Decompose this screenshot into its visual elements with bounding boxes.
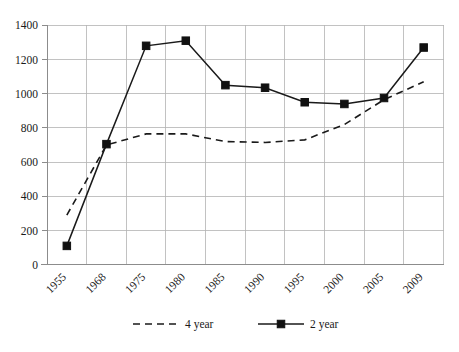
- data-point-marker: [380, 94, 388, 102]
- data-point-marker: [261, 84, 269, 92]
- y-axis-tick-label: 400: [21, 190, 39, 202]
- y-axis-tick-label: 1000: [15, 88, 38, 100]
- legend-label: 4 year: [185, 318, 214, 331]
- line-chart: 0200400600800100012001400 19551968197519…: [0, 0, 459, 352]
- data-point-marker: [222, 81, 230, 89]
- chart-container: 0200400600800100012001400 19551968197519…: [0, 0, 459, 352]
- legend-swatch-marker: [277, 320, 285, 328]
- chart-background: [0, 0, 459, 352]
- data-point-marker: [341, 100, 349, 108]
- data-point-marker: [420, 44, 428, 52]
- y-axis-tick-label: 600: [21, 156, 39, 168]
- legend-label: 2 year: [310, 318, 339, 331]
- data-point-marker: [103, 140, 111, 148]
- data-point-marker: [63, 242, 71, 250]
- data-point-marker: [182, 37, 190, 45]
- y-axis-tick-label: 1400: [15, 19, 38, 31]
- y-axis-tick-label: 200: [21, 225, 39, 237]
- y-axis-tick-label: 1200: [15, 54, 38, 66]
- data-point-marker: [301, 99, 309, 107]
- y-axis-tick-label: 0: [32, 259, 38, 271]
- y-axis-tick-label: 800: [21, 122, 39, 134]
- data-point-marker: [142, 42, 150, 50]
